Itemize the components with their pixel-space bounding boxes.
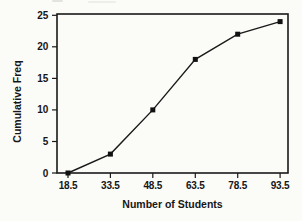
- y-tick-label: 20: [37, 41, 48, 52]
- chart-canvas: 18.533.548.563.578.593.5 0510152025 Numb…: [0, 0, 302, 221]
- y-tick-label: 15: [37, 73, 48, 84]
- data-point: [235, 32, 240, 37]
- x-tick-label: 63.5: [186, 180, 205, 191]
- y-tick-label: 0: [43, 168, 49, 179]
- data-point: [150, 107, 155, 112]
- x-axis-title: Number of Students: [122, 198, 222, 210]
- data-point: [108, 152, 113, 157]
- plot-frame: [57, 14, 288, 173]
- y-axis-title: Cumulative Freq: [11, 60, 23, 142]
- cumulative-frequency-ogive-figure: 18.533.548.563.578.593.5 0510152025 Numb…: [0, 0, 302, 221]
- y-tick-label: 25: [37, 10, 48, 21]
- y-tick-label: 5: [43, 136, 49, 147]
- y-axis-ticks: 0510152025: [37, 10, 57, 179]
- data-point: [278, 19, 283, 24]
- data-point-markers: [66, 19, 283, 175]
- x-tick-label: 93.5: [271, 180, 290, 191]
- x-tick-label: 18.5: [59, 180, 78, 191]
- y-tick-label: 10: [37, 104, 48, 115]
- x-tick-label: 48.5: [143, 180, 162, 191]
- data-point: [193, 57, 198, 62]
- x-tick-label: 33.5: [101, 180, 120, 191]
- x-axis-ticks: 18.533.548.563.578.593.5: [59, 173, 290, 191]
- data-point: [66, 171, 71, 176]
- x-tick-label: 78.5: [228, 180, 247, 191]
- cumulative-frequency-line: [68, 22, 280, 173]
